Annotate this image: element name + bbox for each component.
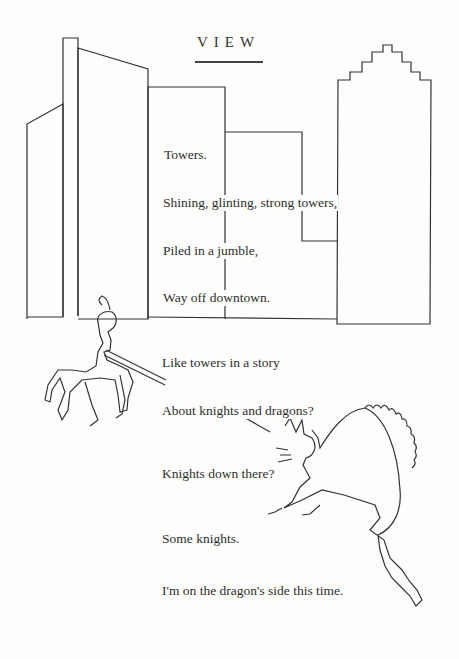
poem-line: About knights and dragons? [161,403,315,419]
poem-line: Way off downtown. [162,290,271,306]
skyline-illustration [27,38,431,324]
poem-line: Towers. [163,147,208,163]
illustration-layer [0,0,459,659]
poem-line: Shining, glinting, strong towers, [162,195,338,211]
poem-line: Knights down there? [161,466,275,482]
poem-page: VIEW Towers. Shining, glinting, strong t… [0,0,459,659]
dragon-illustration [242,405,422,606]
poem-line: Like towers in a story [161,355,281,371]
poem-title: VIEW [197,34,260,51]
poem-line: Some knights. [161,531,240,547]
poem-line: I'm on the dragon's side this time. [161,583,344,599]
title-underline [195,61,263,63]
poem-line: Piled in a jumble, [162,243,259,259]
